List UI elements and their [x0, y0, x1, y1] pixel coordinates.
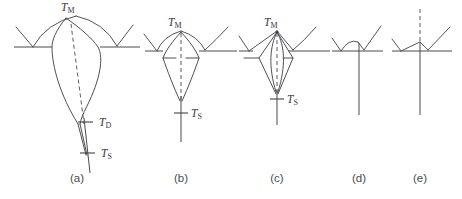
panel-e-left-arc	[401, 42, 420, 51]
panel-b-label-tm: TM	[168, 16, 182, 30]
panel-e: (e)	[392, 9, 452, 184]
panel-b-body-left-wall	[163, 32, 181, 101]
panel-b-label-ts: TS	[191, 107, 202, 121]
panel-c-label-ts: TS	[287, 93, 298, 107]
diagram-svg: TM TD TS (a) TM	[0, 0, 462, 199]
panel-c-caption: (c)	[270, 172, 284, 184]
panel-c-left-flank	[239, 36, 249, 51]
panel-b-left-arc	[157, 31, 181, 51]
panel-a-label-td: TD	[99, 116, 111, 130]
panel-b: TM TS (b)	[144, 16, 237, 184]
panel-d-caption: (d)	[352, 172, 366, 184]
panel-a-left-flank	[16, 27, 33, 47]
panel-d-left-flank	[332, 38, 341, 51]
panel-c-body-right-wall	[277, 32, 293, 94]
panel-a-body-left-wall	[52, 18, 78, 124]
panel-e-left-flank	[392, 39, 401, 51]
panel-e-caption: (e)	[413, 172, 427, 184]
panel-a-caption: (a)	[70, 172, 84, 184]
panel-c-left-arc	[249, 31, 277, 51]
panel-b-left-flank	[144, 34, 157, 51]
panel-e-right-flank	[428, 27, 450, 50]
panel-c-summit-node	[275, 30, 278, 33]
panel-a-right-flank	[117, 25, 133, 46]
panel-c: TM TS (c)	[239, 16, 330, 184]
panel-d: (d)	[332, 26, 383, 184]
panel-b-caption: (b)	[174, 172, 188, 184]
panel-b-body-right-wall	[181, 32, 199, 101]
panel-a-label-tm: TM	[61, 1, 75, 15]
panel-c-body-inner-left	[271, 32, 277, 92]
panel-e-right-arc	[420, 42, 428, 50]
panel-d-right-flank	[364, 26, 381, 50]
panel-a-body-right-wall	[66, 18, 101, 124]
panel-a-label-ts: TS	[101, 147, 112, 161]
panel-b-right-flank	[205, 27, 228, 50]
panel-c-right-flank	[293, 27, 316, 50]
panel-d-left-arc	[341, 41, 358, 51]
figure-container: TM TD TS (a) TM	[0, 0, 462, 199]
panel-a-dashed-axis	[71, 24, 84, 124]
panel-c-label-tm: TM	[264, 16, 278, 30]
panel-a: TM TD TS (a)	[14, 1, 140, 184]
panel-c-right-arc	[277, 31, 293, 50]
